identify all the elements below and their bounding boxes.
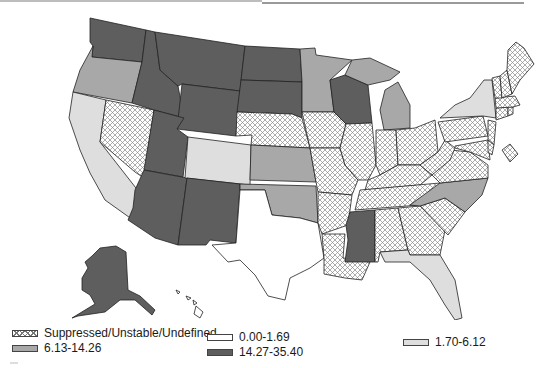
- state-CT[interactable]: [496, 107, 508, 120]
- legend-swatch-c0: [207, 334, 233, 341]
- state-KS[interactable]: [250, 145, 316, 182]
- legend-swatch-c1: [403, 339, 429, 346]
- state-HI[interactable]: [176, 290, 203, 318]
- state-PA[interactable]: [438, 116, 488, 142]
- legend-item-1-70-6-12: 1.70-6.12: [403, 336, 486, 348]
- state-AZ[interactable]: [128, 170, 187, 245]
- state-FL[interactable]: [380, 250, 462, 320]
- legend-label: 1.70-6.12: [435, 336, 486, 348]
- state-WY[interactable]: [177, 84, 240, 136]
- state-AK[interactable]: [72, 246, 155, 318]
- legend-swatch-c3: [207, 349, 233, 356]
- legend-label: Suppressed/Unstable/Undefined: [44, 327, 217, 339]
- corner-mark: [10, 362, 18, 364]
- state-MS[interactable]: [345, 210, 375, 262]
- state-MI[interactable]: [380, 82, 410, 130]
- legend-label: 6.13-14.26: [44, 342, 101, 354]
- legend-label: 14.27-35.40: [239, 346, 303, 358]
- legend-swatch-suppressed: [12, 330, 38, 337]
- state-NE[interactable]: [236, 112, 310, 148]
- state-NM[interactable]: [178, 178, 240, 245]
- state-RI[interactable]: [508, 107, 513, 116]
- legend-item-14-27-35-40: 14.27-35.40: [207, 346, 303, 358]
- legend-item-6-13-14-26: 6.13-14.26: [12, 342, 101, 354]
- state-NY[interactable]: [440, 80, 496, 118]
- legend-item-suppressed: Suppressed/Unstable/Undefined: [12, 327, 217, 339]
- state-ND[interactable]: [241, 46, 302, 82]
- legend-label: 0.00-1.69: [239, 331, 290, 343]
- state-ME[interactable]: [507, 42, 534, 94]
- us-choropleth-map: [0, 0, 548, 320]
- state-DC[interactable]: [502, 144, 518, 162]
- legend-swatch-c2: [12, 345, 38, 352]
- state-WA[interactable]: [90, 18, 146, 62]
- state-CO[interactable]: [185, 137, 251, 185]
- legend-item-0-00-1-69: 0.00-1.69: [207, 331, 290, 343]
